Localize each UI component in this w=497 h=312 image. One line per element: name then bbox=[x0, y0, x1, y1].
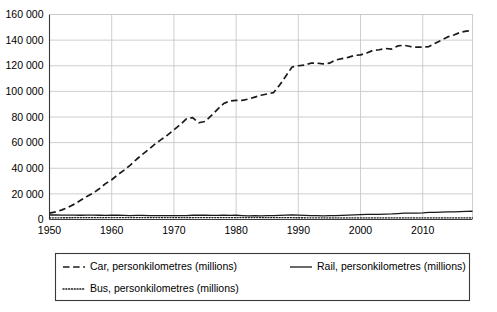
y-axis-tick-label: 100 000 bbox=[6, 85, 44, 97]
x-axis-tick-label: 1960 bbox=[100, 224, 124, 236]
y-axis-tick-label: 120 000 bbox=[6, 59, 44, 71]
x-axis-tick-label: 1950 bbox=[38, 224, 62, 236]
legend-label: Car, personkilometres (millions) bbox=[90, 260, 237, 272]
y-axis-tick-label: 60 000 bbox=[11, 136, 43, 148]
y-axis-tick-label: 80 000 bbox=[11, 111, 43, 123]
x-axis-tick-label: 1970 bbox=[162, 224, 186, 236]
legend-entry-car[interactable]: Car, personkilometres (millions) bbox=[63, 260, 237, 272]
y-axis-tick-label: 20 000 bbox=[11, 188, 43, 200]
legend-label: Rail, personkilometres (millions) bbox=[317, 260, 466, 272]
legend-entry-bus[interactable]: Bus, personkilometres (millions) bbox=[63, 282, 239, 294]
x-axis-tick-label: 1990 bbox=[287, 224, 311, 236]
legend-label: Bus, personkilometres (millions) bbox=[90, 282, 239, 294]
x-axis-tick-label: 1980 bbox=[224, 224, 248, 236]
chart-container: 020 00040 00060 00080 000100 000120 0001… bbox=[0, 0, 497, 312]
x-axis-tick-label: 2010 bbox=[411, 224, 435, 236]
y-axis-tick-label: 140 000 bbox=[6, 34, 44, 46]
y-axis-tick-labels: 020 00040 00060 00080 000100 000120 0001… bbox=[6, 8, 44, 225]
transport-personkilometres-line-chart: 020 00040 00060 00080 000100 000120 0001… bbox=[0, 0, 497, 312]
y-axis-tick-label: 40 000 bbox=[11, 162, 43, 174]
x-axis-tick-label: 2000 bbox=[349, 224, 373, 236]
y-axis-tick-label: 160 000 bbox=[6, 8, 44, 20]
legend-entry-rail[interactable]: Rail, personkilometres (millions) bbox=[290, 260, 466, 272]
